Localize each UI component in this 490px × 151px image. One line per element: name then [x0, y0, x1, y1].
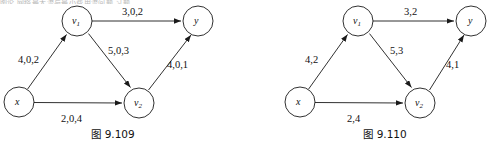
- edge-v1-to-v2: [370, 34, 412, 88]
- figure-9-109-caption: 图 9.109: [83, 128, 143, 141]
- edge-label-v1-y: 3,2: [404, 6, 417, 17]
- edge-x-to-v2: [315, 103, 403, 104]
- edge-label-x-v2: 2,0,4: [61, 113, 82, 124]
- edge-v1-to-v2: [89, 34, 131, 88]
- node-label-v2: v2: [134, 98, 142, 111]
- node-label-v1-subscript: 1: [76, 20, 80, 28]
- edge-label-v1-y: 3,0,2: [122, 6, 143, 17]
- node-label-x: x: [15, 97, 19, 107]
- edge-label-x-v1: 4,0,2: [18, 54, 39, 65]
- node-label-v2: v2: [415, 98, 423, 111]
- edge-label-v1-v2: 5,0,3: [108, 45, 129, 56]
- node-label-v2-subscript: 2: [419, 102, 423, 110]
- edge-label-v1-v2: 5,3: [390, 45, 403, 56]
- figure-9-109: x v1 v2 y 4,0,2 3,0,2 5,0,3 2,0,4 4,0,1 …: [0, 0, 245, 151]
- edge-label-x-v1: 4,2: [305, 54, 318, 65]
- node-label-y: y: [194, 16, 198, 26]
- figure-9-110-caption: 图 9.110: [355, 128, 415, 141]
- node-label-v1: v1: [72, 16, 80, 29]
- edge-label-v2-y: 4,1: [446, 59, 459, 70]
- node-label-v1: v1: [353, 16, 361, 29]
- figure-9-110: x v1 v2 y 4,2 3,2 5,3 2,4 4,1 图 9.110: [281, 0, 490, 151]
- edge-label-v2-y: 4,0,1: [167, 59, 188, 70]
- node-label-x: x: [296, 97, 300, 107]
- node-label-v2-subscript: 2: [138, 102, 142, 110]
- edge-label-x-v2: 2,4: [347, 113, 360, 124]
- node-label-y: y: [468, 16, 472, 26]
- node-label-v1-subscript: 1: [357, 20, 361, 28]
- edge-x-to-v2: [34, 103, 122, 104]
- figure-page: 图论 网络最大流与最小费用流问题 习题 x v1 v2 y: [0, 0, 490, 151]
